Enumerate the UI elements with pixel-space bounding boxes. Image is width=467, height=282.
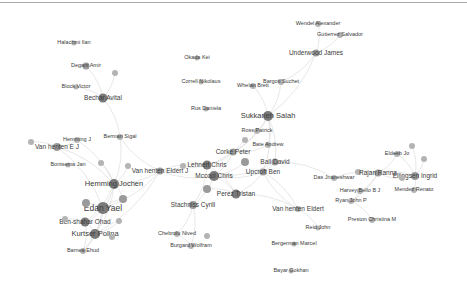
node-label: Perez Tristan [217, 191, 255, 198]
node-label: Gutierrez Salvador [317, 32, 363, 38]
graph-node[interactable] [112, 70, 118, 76]
graph-node[interactable] [399, 175, 405, 181]
node-label: Correll Nikolaus [182, 79, 221, 85]
node-label: Stachniss Cyrill [171, 202, 215, 209]
graph-edge [103, 98, 120, 137]
node-label: Bargoti Suchet [263, 79, 299, 85]
node-label: Mccool Chris [195, 173, 233, 180]
node-label: Das Jnaneshwar [314, 175, 355, 181]
graph-node[interactable] [421, 156, 427, 162]
node-label: Van henten Eldert [272, 206, 324, 213]
graph-node[interactable] [109, 234, 115, 240]
node-label: Halachmi Ilan [57, 40, 90, 46]
node-label: Okada Kei [184, 55, 210, 61]
graph-node[interactable] [125, 163, 131, 169]
node-label: Barnea Ehud [67, 248, 99, 254]
graph-node[interactable] [28, 139, 34, 145]
node-label: Burgard Wolfram [170, 243, 211, 249]
node-label: Bate Andrew [252, 142, 283, 148]
graph-edge [114, 137, 121, 184]
node-label: Mendez Renato [395, 187, 434, 193]
graph-node[interactable] [203, 185, 211, 193]
node-label: Rajan Ranna [359, 170, 397, 177]
node-label: Degani Amir [71, 63, 101, 69]
node-label: Berman Sigal [103, 134, 136, 140]
node-label: Hemming Jochen [85, 180, 143, 188]
graph-node[interactable] [98, 160, 104, 166]
node-label: Edan Yael [84, 204, 122, 213]
node-label: Chebrolu Nived [158, 231, 196, 237]
node-label: Wendel Alexander [296, 21, 341, 27]
graph-node[interactable] [82, 199, 90, 207]
node-label: Bechar Avital [84, 95, 122, 102]
node-label: Upcroft Ben [246, 169, 280, 176]
node-label: Bontsema Jan [50, 162, 85, 168]
node-label: Corke Peter [216, 149, 251, 156]
graph-edge [263, 172, 298, 209]
graph-node[interactable] [204, 233, 210, 239]
node-label: Van henten Eldert J [132, 168, 189, 175]
node-label: Rus Daniela [191, 106, 221, 112]
node-label: Underwood James [289, 50, 343, 57]
node-label: Eldeeb Jo [385, 151, 409, 157]
node-label: Preston Christina M [348, 217, 396, 223]
graph-edge [263, 172, 298, 209]
graph-node[interactable] [241, 158, 249, 166]
node-label: Harvey Bello B J [340, 188, 381, 194]
node-label: Ross Patrick [242, 128, 273, 134]
graph-node[interactable] [409, 143, 415, 149]
graph-node[interactable] [242, 137, 248, 143]
graph-node[interactable] [116, 218, 122, 224]
node-label: Reid John [306, 225, 331, 231]
node-label: Lehnert Chris [187, 162, 226, 169]
node-label: Sukkarieh Salah [241, 112, 296, 120]
node-label: Ryan John P [335, 198, 367, 204]
node-label: Bayar Gokhan [273, 268, 308, 274]
graph-node[interactable] [62, 216, 68, 222]
graph-node[interactable] [180, 163, 186, 169]
node-label: Van henten E J [35, 144, 79, 151]
node-label: Ball David [260, 159, 289, 166]
node-label: Block Victor [62, 84, 91, 90]
node-label: Bergerman Marcel [271, 241, 316, 247]
